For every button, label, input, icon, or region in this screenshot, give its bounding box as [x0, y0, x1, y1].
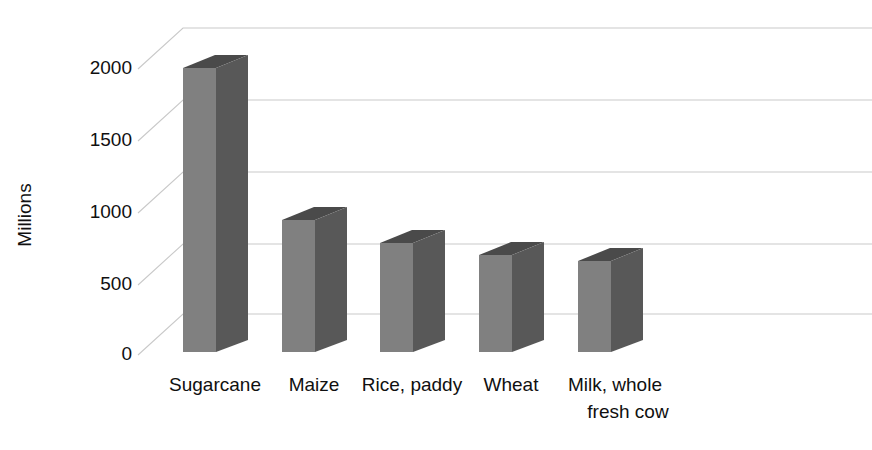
bar-side-face-milk [611, 248, 643, 352]
bar-group-rice-paddy[interactable] [380, 230, 445, 352]
bar-group-sugarcane[interactable] [183, 55, 248, 352]
x-category-label-wheat: Wheat [484, 374, 540, 395]
y-tick-label-500: 500 [100, 273, 132, 294]
y-axis-title: Millions [14, 183, 35, 246]
bar-side-face-maize [315, 207, 347, 352]
gridline-2000 [138, 28, 872, 69]
y-tick-labels: 2000 1500 1000 500 0 [90, 57, 132, 364]
bar-front-face-sugarcane [183, 68, 216, 352]
bar-front-face-rice-paddy [380, 243, 413, 352]
x-category-labels: Sugarcane Maize Rice, paddy Wheat Milk, … [169, 374, 669, 422]
x-category-label-sugarcane: Sugarcane [169, 374, 261, 395]
bar-group-wheat[interactable] [479, 242, 544, 352]
bar-front-face-maize [282, 220, 315, 352]
bar-front-face-milk [578, 261, 611, 352]
x-category-label-maize: Maize [289, 374, 340, 395]
y-tick-label-1500: 1500 [90, 129, 132, 150]
x-category-label-milk-line2: fresh cow [587, 401, 669, 422]
bar-group-milk-whole-fresh-cow[interactable] [578, 248, 643, 352]
y-tick-label-1000: 1000 [90, 201, 132, 222]
bar-side-face-sugarcane [216, 55, 248, 352]
chart-canvas: 2000 1500 1000 500 0 Millions [0, 0, 872, 450]
gridline-1000 [138, 172, 872, 213]
y-tick-label-2000: 2000 [90, 57, 132, 78]
y-tick-label-0: 0 [121, 343, 132, 364]
bar-chart: 2000 1500 1000 500 0 Millions [0, 0, 872, 450]
gridline-1500 [138, 100, 872, 141]
x-category-label-rice-paddy: Rice, paddy [362, 374, 463, 395]
x-category-label-milk-line1: Milk, whole [568, 374, 662, 395]
bar-group-maize[interactable] [282, 207, 347, 352]
bar-side-face-rice-paddy [413, 230, 445, 352]
bar-front-face-wheat [479, 255, 512, 352]
bar-side-face-wheat [512, 242, 544, 352]
